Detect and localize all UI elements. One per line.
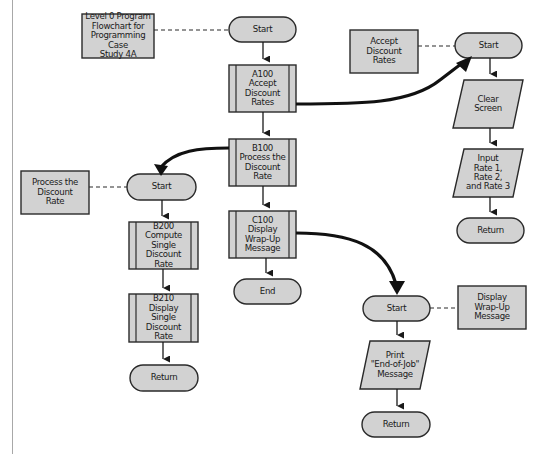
note-wrapup-label: Display Wrap-Up Message bbox=[458, 286, 526, 329]
note-accept-label: Accept Discount Rates bbox=[350, 30, 418, 73]
module-call-arrows bbox=[160, 62, 464, 284]
b200-label: B200 Compute Single Discount Rate bbox=[136, 222, 191, 269]
accept-return-label: Return bbox=[457, 218, 524, 243]
flow-arrows bbox=[162, 42, 490, 406]
process-start-label: Start bbox=[127, 174, 196, 200]
call-arrowheads bbox=[154, 56, 472, 295]
clear-screen-label: Clear Screen bbox=[455, 80, 521, 128]
note-title-label: Level 0 Program Flowchart for Programmin… bbox=[82, 14, 154, 58]
b210-label: B210 Display Single Discount Rate bbox=[136, 294, 191, 342]
c100-label: C100 Display Wrap-Up Message bbox=[236, 211, 289, 258]
wrapup-start-label: Start bbox=[363, 296, 430, 321]
main-end-label: End bbox=[234, 279, 301, 304]
print-message-label: Print "End-of-Job" Message bbox=[362, 341, 428, 389]
call-arrow-b100 bbox=[160, 148, 229, 168]
call-arrow-c100 bbox=[296, 233, 396, 284]
main-start-label: Start bbox=[229, 17, 296, 42]
wrapup-return-label: Return bbox=[362, 412, 430, 437]
input-rates-label: Input Rate 1, Rate 2, and Rate 3 bbox=[455, 149, 521, 197]
note-process-label: Process the Discount Rate bbox=[21, 171, 89, 214]
accept-start-label: Start bbox=[455, 33, 522, 58]
b100-label: B100 Process the Discount Rate bbox=[236, 139, 289, 186]
a100-label: A100 Accept Discount Rates bbox=[236, 65, 289, 112]
process-return-label: Return bbox=[130, 365, 198, 391]
